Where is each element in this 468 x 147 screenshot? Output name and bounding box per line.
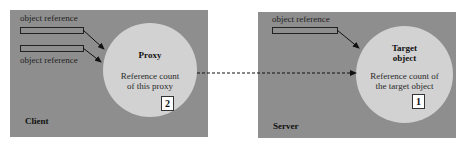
ref-arrow-1 — [83, 30, 104, 49]
server-ref-arrow — [337, 30, 359, 48]
ref-arrow-2 — [83, 48, 101, 62]
arrows-layer — [0, 0, 468, 147]
